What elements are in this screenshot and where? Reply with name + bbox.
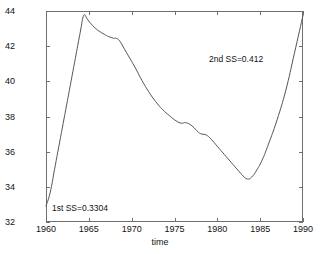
x-axis-tick-mark <box>46 218 47 222</box>
x-axis-tick-label: 1980 <box>207 225 227 234</box>
y-axis-tick-mark <box>299 81 303 82</box>
y-axis-tick-mark <box>299 187 303 188</box>
y-axis-tick-mark <box>299 152 303 153</box>
x-axis-tick-label: 1985 <box>250 225 270 234</box>
y-axis-tick-mark <box>46 187 50 188</box>
x-axis-tick-label: 1965 <box>79 225 99 234</box>
y-axis-tick-label: 44 <box>5 7 15 16</box>
x-axis-tick-mark <box>89 11 90 15</box>
y-axis-tick-label: 36 <box>5 147 15 156</box>
x-axis-tick-mark <box>217 218 218 222</box>
annotation-second-ss: 2nd SS=0.412 <box>209 55 263 64</box>
y-axis-tick-label: 34 <box>5 182 15 191</box>
x-axis-tick-mark <box>175 218 176 222</box>
y-axis-tick-mark <box>46 81 50 82</box>
x-axis-tick-mark <box>260 218 261 222</box>
x-axis-tick-label: 1990 <box>293 225 313 234</box>
y-axis-tick-label: 42 <box>5 42 15 51</box>
x-axis-tick-mark <box>217 11 218 15</box>
x-axis-tick-mark <box>132 218 133 222</box>
y-axis-tick-mark <box>46 222 50 223</box>
annotation-first-ss: 1st SS=0.3304 <box>52 204 108 213</box>
y-axis-tick-mark <box>46 46 50 47</box>
y-axis-tick-mark <box>46 117 50 118</box>
x-axis-tick-mark <box>303 218 304 222</box>
x-axis-tick-label: 1970 <box>122 225 142 234</box>
y-axis-tick-label: 38 <box>5 112 15 121</box>
x-axis-tick-label: 1975 <box>164 225 184 234</box>
y-axis-tick-mark <box>46 152 50 153</box>
y-axis-tick-label: 40 <box>5 77 15 86</box>
x-axis-title: time <box>0 238 320 247</box>
x-axis-tick-mark <box>46 11 47 15</box>
y-axis-tick-label: 32 <box>5 218 15 227</box>
x-axis-tick-mark <box>175 11 176 15</box>
plot-area-frame <box>46 11 303 222</box>
x-axis-tick-mark <box>89 218 90 222</box>
x-axis-tick-label: 1960 <box>36 225 56 234</box>
x-axis-tick-mark <box>260 11 261 15</box>
y-axis-tick-mark <box>299 222 303 223</box>
x-axis-tick-mark <box>132 11 133 15</box>
y-axis-tick-mark <box>299 46 303 47</box>
x-axis-tick-mark <box>303 11 304 15</box>
y-axis-tick-mark <box>299 117 303 118</box>
chart-figure: 32343638404244 1960196519701975198019851… <box>0 0 320 254</box>
